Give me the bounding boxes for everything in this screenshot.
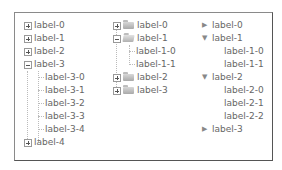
tree-guide-line [129, 45, 130, 65]
caret-down-icon[interactable]: ▼ [202, 32, 207, 45]
node-label: label-1 [212, 32, 243, 45]
node-label: label-3-1 [45, 84, 85, 97]
node-label: label-4 [34, 136, 65, 149]
tree-branch-line [129, 51, 135, 52]
collapse-minus-icon[interactable] [24, 61, 32, 69]
folder-icon [123, 87, 134, 94]
node-label: label-2-2 [224, 110, 264, 123]
folder-open-icon [122, 35, 134, 42]
node-label: label-3-4 [45, 123, 85, 136]
tree-branch-line [38, 116, 44, 117]
node-label: label-0 [212, 19, 243, 32]
node-label: label-3-2 [45, 97, 85, 110]
folder-icon [123, 22, 134, 29]
node-label: label-1-1 [136, 58, 176, 71]
caret-right-icon[interactable]: ▶ [202, 123, 207, 136]
tree-guide-line [38, 71, 39, 142]
expand-plus-icon[interactable] [24, 48, 32, 56]
node-label: label-2 [212, 71, 243, 84]
node-label: label-3 [137, 84, 168, 97]
collapse-minus-icon[interactable] [113, 35, 121, 43]
node-label: label-1-0 [224, 45, 264, 58]
node-label: label-3-3 [45, 110, 85, 123]
caret-right-icon[interactable]: ▶ [202, 19, 207, 32]
node-label: label-1 [137, 32, 168, 45]
node-label: label-0 [34, 19, 65, 32]
expand-plus-icon[interactable] [24, 139, 32, 147]
node-label: label-3-0 [45, 71, 85, 84]
node-label: label-2-0 [224, 84, 264, 97]
tree-demo-panel: label-0 label-1 label-2 label-3 label-3-… [14, 12, 273, 161]
node-label: label-3 [212, 123, 243, 136]
node-label: label-1-0 [136, 45, 176, 58]
folder-icon [123, 74, 134, 81]
node-label: label-2 [34, 45, 65, 58]
expand-plus-icon[interactable] [24, 22, 32, 30]
expand-plus-icon[interactable] [113, 74, 121, 82]
tree-branch-line [129, 64, 135, 65]
tree-branch-line [38, 90, 44, 91]
node-label: label-2-1 [224, 97, 264, 110]
expand-plus-icon[interactable] [113, 87, 121, 95]
node-label: label-1 [34, 32, 65, 45]
tree-branch-line [38, 103, 44, 104]
expand-plus-icon[interactable] [113, 22, 121, 30]
expand-plus-icon[interactable] [24, 35, 32, 43]
caret-down-icon[interactable]: ▼ [202, 71, 207, 84]
tree-branch-line [38, 77, 44, 78]
node-label: label-2 [137, 71, 168, 84]
node-label: label-1-1 [224, 58, 264, 71]
tree-branch-line [38, 129, 44, 130]
node-label: label-3 [34, 58, 65, 71]
node-label: label-0 [137, 19, 168, 32]
tree-guide-line [27, 71, 28, 141]
